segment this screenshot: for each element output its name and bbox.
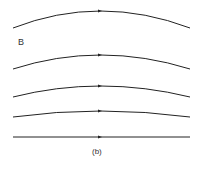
figure-caption: (b): [92, 147, 102, 156]
arrow-right-icon: [98, 53, 102, 56]
field-line-path: [13, 11, 190, 28]
field-line-4: [13, 109, 190, 117]
arrow-right-icon: [98, 9, 102, 12]
arrow-right-icon: [98, 109, 102, 112]
field-line-3: [13, 84, 190, 97]
field-line-path: [13, 86, 190, 97]
field-lines-diagram: [0, 0, 199, 170]
field-line-1: [13, 9, 190, 28]
field-label-b: B: [18, 37, 24, 47]
field-line-2: [13, 53, 190, 69]
field-line-path: [13, 55, 190, 69]
field-line-path: [13, 111, 190, 117]
arrow-right-icon: [98, 135, 102, 138]
arrow-right-icon: [98, 84, 102, 87]
field-line-5: [13, 135, 190, 138]
